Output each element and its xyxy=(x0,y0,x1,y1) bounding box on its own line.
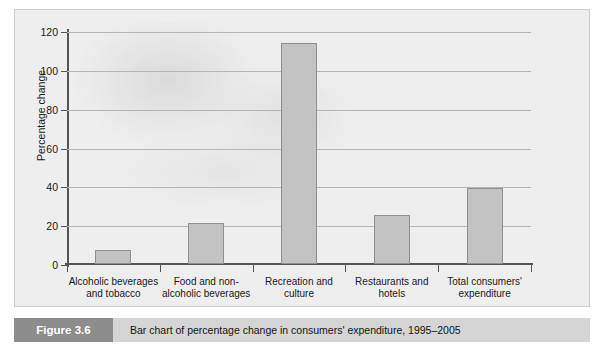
y-axis-tick-label: 20 xyxy=(46,220,58,232)
x-axis-label-line: Recreation and xyxy=(246,276,352,288)
x-axis-label: Recreation andculture xyxy=(246,276,352,300)
y-axis-tick-label: 60 xyxy=(46,143,58,155)
x-axis-tick xyxy=(345,265,346,272)
plot-area: 020406080100120 Alcoholic beveragesand t… xyxy=(67,32,531,265)
y-axis-tick xyxy=(61,226,67,227)
figure-caption-bar: Figure 3.6 Bar chart of percentage chang… xyxy=(14,318,590,342)
x-axis-tick xyxy=(253,265,254,272)
figure-caption-text: Bar chart of percentage change in consum… xyxy=(113,318,590,342)
y-axis-tick xyxy=(61,71,67,72)
x-axis-label-line: expenditure xyxy=(432,288,538,300)
y-axis-tick xyxy=(61,110,67,111)
x-axis-label-line: Food and non- xyxy=(153,276,259,288)
x-axis-tick xyxy=(531,265,532,272)
y-axis-tick xyxy=(61,32,67,33)
y-axis-tick-label: 0 xyxy=(52,259,58,271)
x-axis-label-line: and tobacco xyxy=(60,288,166,300)
x-axis-label: Restaurants andhotels xyxy=(339,276,445,300)
x-axis-tick xyxy=(438,265,439,272)
x-axis-label-line: alcoholic beverages xyxy=(153,288,259,300)
y-axis-tick-label: 100 xyxy=(40,65,58,77)
y-axis-tick xyxy=(61,187,67,188)
x-axis-label-line: Alcoholic beverages xyxy=(60,276,166,288)
x-axis-label-line: culture xyxy=(246,288,352,300)
y-axis-tick-label: 40 xyxy=(46,181,58,193)
bar xyxy=(95,250,131,264)
figure-number-badge: Figure 3.6 xyxy=(14,318,113,342)
x-axis-label-line: hotels xyxy=(339,288,445,300)
x-axis-tick xyxy=(67,265,68,272)
y-axis-tick-label: 120 xyxy=(40,26,58,38)
bar xyxy=(188,223,224,264)
gridline xyxy=(67,32,531,33)
x-axis-tick xyxy=(160,265,161,272)
x-axis-label-line: Total consumers' xyxy=(432,276,538,288)
bar xyxy=(467,188,503,264)
x-axis-label: Food and non-alcoholic beverages xyxy=(153,276,259,300)
x-axis-label: Total consumers'expenditure xyxy=(432,276,538,300)
bar xyxy=(374,215,410,264)
figure-container: Percentage change 020406080100120 Alcoho… xyxy=(0,0,604,360)
y-axis-tick xyxy=(61,149,67,150)
y-axis-tick-label: 80 xyxy=(46,104,58,116)
x-axis-label-line: Restaurants and xyxy=(339,276,445,288)
y-axis-title: Percentage change xyxy=(35,70,47,161)
chart-panel: Percentage change 020406080100120 Alcoho… xyxy=(14,9,590,307)
bar xyxy=(281,43,317,264)
x-axis-label: Alcoholic beveragesand tobacco xyxy=(60,276,166,300)
